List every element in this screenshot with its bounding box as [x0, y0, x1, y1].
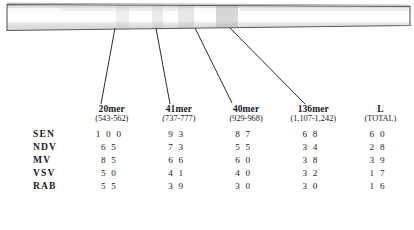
column-header-total-range: (TOTAL): [347, 115, 414, 124]
column-header-total: L (TOTAL): [347, 104, 414, 127]
cell-mv-41mer: 6 6: [145, 153, 212, 166]
cell-vsv-total: 1 7: [347, 166, 414, 179]
column-header-136mer-range: (1,107-1,242): [280, 115, 347, 124]
column-header-20mer-range: (543-562): [78, 115, 145, 124]
cell-mv-20mer: 8 5: [78, 153, 145, 166]
table-row: MV 8 5 6 6 6 0 3 8 3 9: [0, 153, 414, 166]
table-header: 20mer (543-562) 41mer (737-777) 40mer (9…: [0, 104, 414, 127]
cell-mv-40mer: 6 0: [213, 153, 280, 166]
cell-sen-41mer: 9 3: [145, 127, 212, 140]
leader-line-41mer: [156, 28, 170, 104]
column-header-40mer-range: (929-968): [213, 115, 280, 124]
cell-vsv-41mer: 4 1: [145, 166, 212, 179]
cell-ndv-41mer: 7 3: [145, 140, 212, 153]
cell-ndv-136mer: 3 4: [280, 140, 347, 153]
row-label-rab: RAB: [0, 179, 78, 192]
column-header-136mer-main: 136mer: [280, 104, 347, 114]
cell-sen-total: 6 0: [347, 127, 414, 140]
cell-vsv-136mer: 3 2: [280, 166, 347, 179]
row-label-sen: SEN: [0, 127, 78, 140]
column-header-41mer-main: 41mer: [145, 104, 212, 114]
cell-sen-20mer: 1 0 0: [78, 127, 145, 140]
cell-sen-136mer: 6 8: [280, 127, 347, 140]
leader-line-20mer: [101, 28, 115, 104]
cell-rab-41mer: 3 9: [145, 179, 212, 192]
table-row: VSV 5 0 4 1 4 0 3 2 1 7: [0, 166, 414, 179]
table-body: SEN 1 0 0 9 3 8 7 6 8 6 0 NDV 6 5 7 3 5 …: [0, 127, 414, 192]
leader-line-40mer: [195, 28, 232, 103]
cell-vsv-40mer: 4 0: [213, 166, 280, 179]
column-header-total-main: L: [347, 104, 414, 114]
table-row: RAB 5 5 3 9 3 0 3 0 1 6: [0, 179, 414, 192]
cell-rab-20mer: 5 5: [78, 179, 145, 192]
column-header-41mer-range: (737-777): [145, 115, 212, 124]
row-label-vsv: VSV: [0, 166, 78, 179]
leader-line-136mer: [230, 28, 305, 104]
column-header-rowlabel: [0, 104, 78, 127]
cell-rab-total: 1 6: [347, 179, 414, 192]
column-header-40mer-main: 40mer: [213, 104, 280, 114]
row-label-mv: MV: [0, 153, 78, 166]
table-row: SEN 1 0 0 9 3 8 7 6 8 6 0: [0, 127, 414, 140]
table-header-row: 20mer (543-562) 41mer (737-777) 40mer (9…: [0, 104, 414, 127]
row-label-ndv: NDV: [0, 140, 78, 153]
cell-ndv-40mer: 5 5: [213, 140, 280, 153]
cell-rab-136mer: 3 0: [280, 179, 347, 192]
cell-sen-40mer: 8 7: [213, 127, 280, 140]
cell-vsv-20mer: 5 0: [78, 166, 145, 179]
table-row: NDV 6 5 7 3 5 5 3 4 2 8: [0, 140, 414, 153]
cell-ndv-total: 2 8: [347, 140, 414, 153]
autoradiograph-panel: [0, 0, 414, 36]
cell-ndv-20mer: 6 5: [78, 140, 145, 153]
column-header-136mer: 136mer (1,107-1,242): [280, 104, 347, 127]
column-header-20mer: 20mer (543-562): [78, 104, 145, 127]
cell-mv-136mer: 3 8: [280, 153, 347, 166]
cell-rab-40mer: 3 0: [213, 179, 280, 192]
column-header-41mer: 41mer (737-777): [145, 104, 212, 127]
column-header-40mer: 40mer (929-968): [213, 104, 280, 127]
cell-mv-total: 3 9: [347, 153, 414, 166]
hybridization-data-table: 20mer (543-562) 41mer (737-777) 40mer (9…: [0, 104, 414, 192]
column-header-20mer-main: 20mer: [78, 104, 145, 114]
gel-strip-image: [0, 0, 414, 36]
